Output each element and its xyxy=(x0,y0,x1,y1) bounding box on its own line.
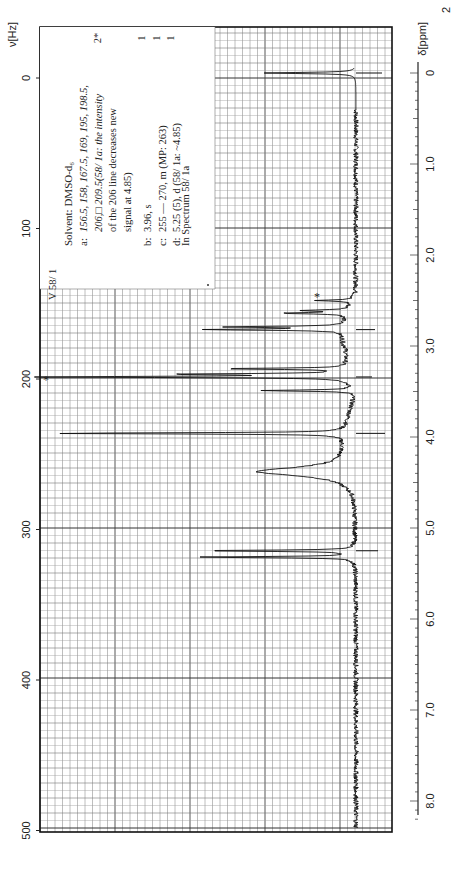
solvent-asterisk-h2o: * xyxy=(43,373,49,387)
integral-value: 1 xyxy=(136,35,147,40)
ppm-axis: 01.02.03.04.05.06.07.08.0 xyxy=(410,62,436,819)
hz-tick-label: 400 xyxy=(20,671,32,689)
integral-value: 1 xyxy=(151,35,162,40)
annotation-line: 156.5, 158, 167.5, 169, 195, 198.5, xyxy=(78,85,89,232)
ppm-tick-label: 2.0 xyxy=(424,247,436,262)
hz-axis-label: ν[Hz] xyxy=(6,22,18,47)
integral-value: 2* xyxy=(92,33,103,44)
ppm-tick-label: 4.0 xyxy=(424,429,436,444)
solvent-label: Solvent: DMSO-d₆ xyxy=(62,162,74,246)
annotation-box xyxy=(40,27,215,289)
annotation-line: 206,□ 209.5(58/ 1a: the intensity xyxy=(93,94,105,232)
ppm-tick-label: 8.0 xyxy=(424,793,436,808)
integral-value: 1 xyxy=(165,35,176,40)
annotation-key: a: xyxy=(77,238,89,246)
nmr-spectrum-chart: 0100200300400500 01.02.03.04.05.06.07.08… xyxy=(0,0,455,878)
annotation-line: 3.96, s xyxy=(142,204,153,232)
hz-tick-label: 100 xyxy=(20,219,32,237)
ppm-tick-label: 6.0 xyxy=(424,611,436,626)
ppm-tick-label: 0 xyxy=(424,70,436,76)
hz-tick-label: 500 xyxy=(20,821,32,839)
hz-axis: 0100200300400500 xyxy=(20,75,40,840)
ppm-axis-label: δ[ppm] xyxy=(416,22,428,56)
ppm-tick-label: 1.0 xyxy=(424,156,436,171)
annotation-line: signal at 4.85) xyxy=(122,172,134,232)
hz-tick-label: 200 xyxy=(20,370,32,388)
hz-tick-label: 300 xyxy=(20,520,32,538)
annotation-line: 255 — 270, m (MP: 263) xyxy=(157,125,169,232)
hz-tick-label: 0 xyxy=(20,75,32,81)
solvent-asterisk-dmso: * xyxy=(314,290,320,304)
annotation-key: c: xyxy=(156,238,168,246)
ppm-tick-label: 7.0 xyxy=(424,702,436,717)
ppm-tick-label: 5.0 xyxy=(424,520,436,535)
annotation-key: b: xyxy=(141,237,153,246)
ppm-tick-label: 3.0 xyxy=(424,338,436,353)
reference-note: In Spectrum 58/ 1a xyxy=(180,165,191,246)
corner-mark: 2 xyxy=(440,7,452,13)
spectrum-id: V 58/ 1 xyxy=(47,269,58,300)
dot-mark xyxy=(207,284,209,286)
annotation-line: of the 206 line decreases new xyxy=(107,108,118,232)
